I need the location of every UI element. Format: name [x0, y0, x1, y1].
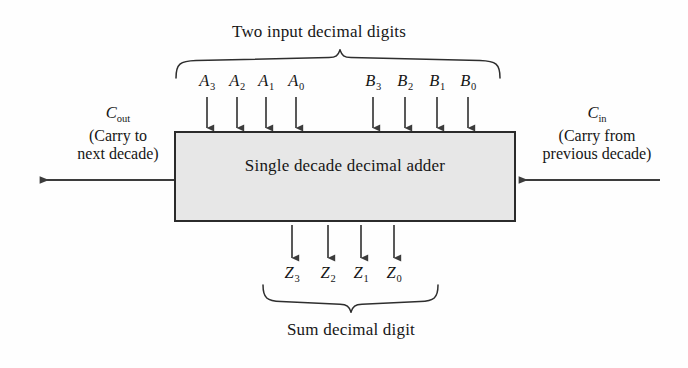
bottom-group-caption: Sum decimal digit [287, 320, 415, 339]
signal-label-a1: A1 [258, 72, 274, 90]
carry-in-note: (Carry from previous decade) [543, 127, 652, 163]
diagram-text-layer: Two input decimal digits A3 A2 A1 A0 B3 … [0, 0, 688, 368]
carry-out-note-line1: (Carry to [77, 127, 158, 145]
block-label: Single decade decimal adder [245, 156, 445, 175]
signal-label-z3: Z3 [285, 264, 300, 282]
signal-label-z1: Z1 [354, 264, 369, 282]
carry-in-symbol: Cin [587, 104, 606, 122]
carry-out-symbol: Cout [106, 104, 130, 122]
signal-label-b1: B1 [429, 72, 445, 90]
signal-label-z0: Z0 [387, 264, 402, 282]
signal-label-z2: Z2 [321, 264, 336, 282]
carry-in-note-line1: (Carry from [543, 127, 652, 145]
top-group-caption: Two input decimal digits [232, 22, 406, 41]
carry-out-note: (Carry to next decade) [77, 127, 158, 163]
signal-label-a0: A0 [288, 72, 304, 90]
block-diagram: Two input decimal digits A3 A2 A1 A0 B3 … [0, 0, 688, 368]
carry-out-note-line2: next decade) [77, 145, 158, 163]
signal-label-a2: A2 [229, 72, 245, 90]
signal-label-b2: B2 [397, 72, 413, 90]
signal-label-b3: B3 [365, 72, 381, 90]
signal-label-a3: A3 [199, 72, 215, 90]
carry-in-note-line2: previous decade) [543, 145, 652, 163]
signal-label-b0: B0 [460, 72, 476, 90]
